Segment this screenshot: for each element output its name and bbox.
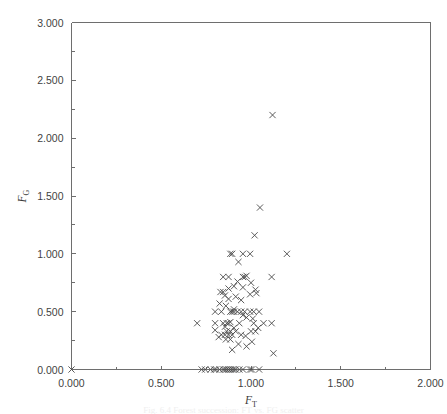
scatter-plot-figure: 0.0000.5001.0001.5002.000 0.0000.5001.00… <box>0 0 447 414</box>
data-point-marker <box>240 284 246 290</box>
data-point-marker <box>225 285 231 291</box>
data-point-marker <box>247 251 253 257</box>
y-tick-label: 2.000 <box>37 132 63 144</box>
data-point-marker <box>269 320 275 326</box>
data-point-marker <box>260 320 266 326</box>
plot-canvas: 0.0000.5001.0001.5002.000 0.0000.5001.00… <box>0 0 447 414</box>
y-axis-title: FG <box>16 189 31 203</box>
data-point-marker <box>225 296 231 302</box>
data-point-marker <box>236 320 242 326</box>
data-point-marker <box>247 309 253 315</box>
y-tick-label: 1.000 <box>37 248 63 260</box>
data-point-marker <box>251 309 257 315</box>
data-point-marker <box>243 314 249 320</box>
data-point-marker <box>233 294 239 300</box>
data-point-marker <box>194 320 200 326</box>
data-point-marker <box>249 339 255 345</box>
x-tick-label: 1.000 <box>238 377 264 389</box>
data-point-marker <box>218 309 224 315</box>
y-tick-label: 1.500 <box>37 190 63 202</box>
data-point-marker <box>257 204 263 210</box>
data-point-marker <box>269 112 275 118</box>
y-axis-title-text: FG <box>16 189 31 203</box>
data-point-marker <box>212 309 218 315</box>
data-point-marker <box>255 325 261 331</box>
y-tick-label: 0.500 <box>37 306 63 318</box>
x-tick-label: 0.500 <box>148 377 174 389</box>
data-point-marker <box>212 327 218 333</box>
data-point-marker <box>251 232 257 238</box>
data-point-marker <box>216 334 222 340</box>
data-point-marker <box>216 300 222 306</box>
data-point-marker <box>284 251 290 257</box>
y-tick-label: 2.500 <box>37 74 63 86</box>
data-point-marker <box>270 350 276 356</box>
figure-caption: Fig. 6.4 Forest succession: FT vs. FG sc… <box>0 405 447 414</box>
data-point-marker <box>238 297 244 303</box>
y-tick-label: 3.000 <box>37 17 63 29</box>
data-point-marker <box>229 347 235 353</box>
y-axis-tick-labels: 0.0000.5001.0001.5002.0002.5003.000 <box>37 17 63 376</box>
plot-frame <box>72 23 431 370</box>
data-point-marker <box>240 251 246 257</box>
data-point-marker <box>235 341 241 347</box>
data-point-marker <box>231 283 237 289</box>
data-point-marker <box>252 328 258 334</box>
x-axis-tick-labels: 0.0000.5001.0001.5002.000 <box>58 377 443 389</box>
data-point-marker <box>220 274 226 280</box>
data-point-marker <box>235 259 241 265</box>
x-tick-label: 0.000 <box>58 377 84 389</box>
data-point-marker <box>238 332 244 338</box>
data-point-marker <box>223 303 229 309</box>
data-point-marker <box>248 280 254 286</box>
data-point-marker <box>227 336 233 342</box>
data-point-marker <box>234 309 240 315</box>
data-point-marker <box>225 274 231 280</box>
data-point-marker <box>247 291 253 297</box>
y-tick-label: 0.000 <box>37 364 63 376</box>
x-tick-label: 2.000 <box>417 377 443 389</box>
data-point-marker <box>243 333 249 339</box>
axis-ticks <box>72 23 431 370</box>
data-point-marker <box>212 320 218 326</box>
data-point-markers <box>68 112 290 373</box>
data-point-marker <box>269 274 275 280</box>
data-point-marker <box>234 278 240 284</box>
x-tick-label: 1.500 <box>328 377 354 389</box>
data-point-marker <box>243 343 249 349</box>
data-point-marker <box>256 309 262 315</box>
